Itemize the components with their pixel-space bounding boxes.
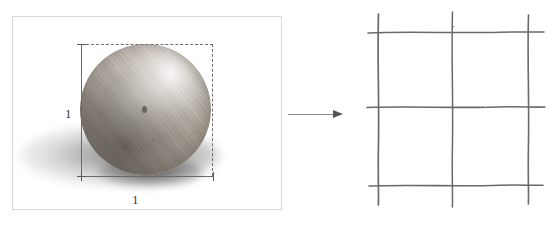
photo-panel: 1 1: [12, 16, 282, 210]
hand-drawn-grid: [350, 0, 560, 230]
grid-line-vertical-3: [528, 15, 529, 204]
photo-stage: 1 1: [13, 17, 281, 209]
vertical-dimension-tick-top: [77, 44, 86, 45]
horizontal-dimension-line: [81, 176, 214, 177]
horizontal-dimension-tick-right: [213, 172, 214, 181]
horizontal-dimension-label: 1: [132, 193, 139, 206]
grid-panel: [350, 0, 560, 230]
figure-root: 1 1: [0, 0, 560, 230]
grid-line-horizontal-1: [368, 32, 544, 33]
transform-arrow: [288, 114, 344, 116]
grid-line-horizontal-2: [367, 107, 545, 108]
grid-line-horizontal-3: [369, 185, 543, 186]
grid-line-vertical-2: [452, 12, 453, 207]
horizontal-dimension-tick-left: [81, 172, 82, 181]
vertical-dimension-line: [81, 44, 82, 177]
vertical-dimension-label: 1: [65, 107, 72, 120]
arrow-shaft: [288, 114, 336, 115]
grid-line-vertical-1: [378, 14, 379, 205]
arrow-head-icon: [333, 110, 343, 118]
bounding-box-dashed: [81, 44, 213, 176]
